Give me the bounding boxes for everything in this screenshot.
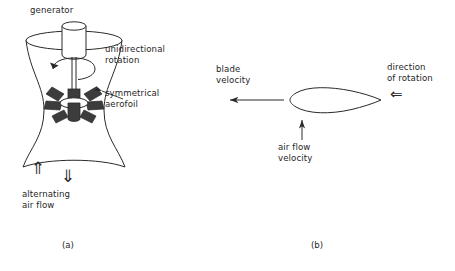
label-unidirectional-rotation: unidirectional rotation: [105, 44, 165, 65]
label-air-flow-velocity: air flow velocity: [278, 142, 312, 163]
rotation-arc-path: [53, 58, 95, 80]
rotor-blade-lower-right: [80, 110, 96, 123]
generator-body: [62, 26, 86, 59]
arrow-down-icon: ⇓: [61, 168, 75, 185]
schematic-drawing: [0, 0, 455, 271]
duct-wall-left: [23, 41, 44, 168]
label-generator: generator: [30, 5, 73, 16]
rotor-hub-lower: [68, 103, 80, 121]
rotation-arc-head: [50, 63, 59, 69]
arrow-rotation-icon: ⇐: [390, 86, 403, 103]
arrow-up-icon: ⇑: [31, 160, 45, 177]
rotor-blade-mid-right: [86, 101, 104, 110]
caption-panel-a: (a): [62, 240, 74, 250]
label-blade-velocity: blade velocity: [216, 64, 250, 85]
rotor-blade-upper-left: [46, 87, 64, 101]
drive-shaft: [72, 57, 76, 90]
rotor-blade-upper-right: [84, 87, 102, 101]
label-symmetrical-aerofoil: symmetrical aerofoil: [105, 88, 159, 109]
caption-panel-b: (b): [311, 240, 323, 250]
aerofoil-outline: [290, 88, 381, 113]
label-direction-of-rotation: direction of rotation: [387, 62, 433, 83]
rotor-blade-lower-left: [52, 110, 68, 123]
label-alternating-air-flow: alternating air flow: [22, 189, 70, 210]
generator-top-cap: [62, 22, 86, 30]
generator-housing: [62, 22, 86, 59]
turbine-rotor: [44, 87, 104, 123]
aerofoil-assembly: [290, 88, 381, 113]
figure-container: generator unidirectional rotation symmet…: [0, 0, 455, 271]
rotor-blade-mid-left: [44, 101, 62, 110]
